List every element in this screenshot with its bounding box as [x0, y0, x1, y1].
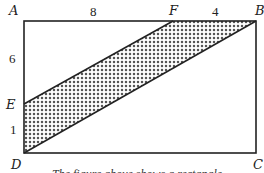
vertex-label-f: F — [168, 3, 179, 18]
vertex-label-a: A — [8, 3, 18, 18]
vertex-label-e: E — [5, 97, 16, 112]
geometry-figure: A F B E D C 8 4 6 1 The figure above sho… — [0, 0, 264, 173]
length-label-ae: 6 — [9, 51, 16, 66]
length-label-af: 8 — [90, 4, 97, 19]
vertex-label-c: C — [253, 157, 263, 172]
figure-caption: The figure above shows a rectangle — [52, 167, 223, 173]
vertex-label-b: B — [254, 3, 264, 18]
length-label-ed: 1 — [10, 122, 17, 137]
length-label-fb: 4 — [212, 4, 219, 19]
vertex-label-d: D — [10, 157, 22, 172]
